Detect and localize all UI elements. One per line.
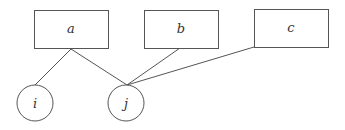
node-i: i bbox=[17, 85, 53, 121]
edge-c-j bbox=[127, 47, 254, 85]
box-b-label: b bbox=[177, 21, 185, 36]
node-j: j bbox=[108, 85, 144, 121]
edge-a-j bbox=[71, 49, 127, 85]
box-c: c bbox=[255, 10, 329, 48]
edges bbox=[35, 47, 254, 85]
box-c-label: c bbox=[287, 20, 295, 35]
diagram-canvas: a b c i j bbox=[0, 0, 345, 130]
edge-b-j bbox=[127, 48, 180, 85]
node-i-label: i bbox=[33, 96, 37, 111]
edge-a-i bbox=[35, 49, 71, 85]
box-b: b bbox=[145, 11, 219, 49]
box-a: a bbox=[35, 11, 109, 49]
box-a-label: a bbox=[67, 21, 75, 36]
